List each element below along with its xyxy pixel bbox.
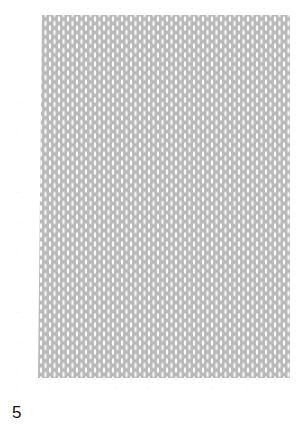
left-tick: - — [18, 100, 19, 104]
bottom-tick: - — [212, 386, 213, 390]
panel-label: 5 — [12, 403, 21, 423]
bottom-tick: - — [18, 386, 19, 390]
left-tick: - — [18, 40, 19, 44]
left-tick: - — [18, 190, 19, 194]
left-tick: - — [18, 160, 19, 164]
bottom-tick: - — [50, 386, 51, 390]
left-tick: - — [18, 310, 19, 314]
bottom-tick: - — [148, 386, 149, 390]
bottom-tick: - — [115, 386, 116, 390]
left-tick: - — [18, 250, 19, 254]
left-tick: - — [18, 220, 19, 224]
left-tick: - — [18, 72, 19, 76]
left-tick: - — [18, 370, 19, 374]
textured-figure-panel — [38, 15, 290, 378]
left-tick: - — [18, 130, 19, 134]
bottom-tick: - — [245, 386, 246, 390]
left-tick: - — [18, 280, 19, 284]
left-tick: - — [18, 340, 19, 344]
